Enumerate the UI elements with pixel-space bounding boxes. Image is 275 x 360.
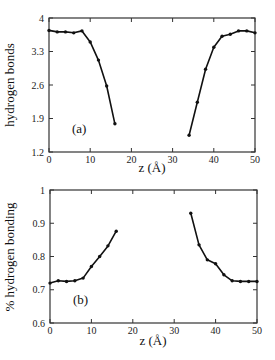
data-point-marker [90,265,93,268]
data-point-marker [115,230,118,233]
y-tick-label: 1 [40,185,45,196]
data-line [189,31,255,135]
panel-b-y-ticks: 0.60.70.80.91 [33,185,258,329]
figure: 01020304050 1.21.92.63.34 z (Å) hydrogen… [0,0,275,360]
data-point-marker [187,134,190,137]
data-point-marker [89,40,92,43]
data-point-marker [255,280,258,283]
panel-b-x-ticks: 01020304050 [48,190,263,336]
data-point-marker [57,279,60,282]
panel-b-chart: 01020304050 0.60.70.80.91 z (Å) % hydrog… [2,185,262,349]
data-point-marker [222,273,225,276]
data-point-marker [80,29,83,32]
data-point-marker [230,279,233,282]
x-tick-label: 0 [48,325,53,336]
y-tick-label: 0.7 [33,284,46,295]
data-point-marker [73,279,76,282]
data-line [50,231,116,283]
data-point-marker [212,45,215,48]
data-point-marker [214,262,217,265]
panel-b-x-axis-label: z (Å) [139,333,166,348]
data-point-marker [189,212,192,215]
y-tick-label: 1.2 [32,147,45,158]
x-tick-label: 30 [168,154,178,165]
data-point-marker [206,258,209,261]
y-tick-label: 3.3 [32,46,45,57]
panel-b-y-axis-label: % hydrogen bonding [2,202,17,312]
x-tick-label: 40 [209,154,219,165]
data-line [49,30,115,123]
data-point-marker [237,29,240,32]
x-tick-label: 10 [85,154,95,165]
data-point-marker [98,255,101,258]
data-point-marker [197,243,200,246]
data-line [191,213,257,281]
data-point-marker [97,58,100,61]
x-tick-label: 40 [211,325,221,336]
data-point-marker [65,280,68,283]
data-point-marker [247,280,250,283]
panel-a-x-ticks: 01020304050 [47,18,261,165]
x-tick-label: 0 [47,154,52,165]
panel-a-y-ticks: 1.21.92.63.34 [32,13,256,158]
x-tick-label: 30 [169,325,179,336]
panel-a-x-axis-label: z (Å) [138,160,165,175]
panel-a-y-axis-label: hydrogen bonds [2,43,17,126]
data-point-marker [113,122,116,125]
x-tick-label: 50 [250,154,260,165]
data-point-marker [220,34,223,37]
data-point-marker [47,29,50,32]
data-point-marker [48,281,51,284]
panel-a-chart: 01020304050 1.21.92.63.34 z (Å) hydrogen… [2,13,260,176]
data-point-marker [245,29,248,32]
data-point-marker [204,68,207,71]
y-tick-label: 1.9 [32,113,45,124]
panel-b-annotation: (b) [73,292,88,307]
data-point-marker [64,30,67,33]
data-point-marker [105,84,108,87]
y-tick-label: 2.6 [32,80,45,91]
data-point-marker [229,33,232,36]
x-tick-label: 20 [128,325,138,336]
panel-a-annotation: (a) [72,121,86,136]
x-tick-label: 20 [126,154,136,165]
data-point-marker [253,31,256,34]
y-tick-label: 0.8 [33,251,46,262]
data-point-marker [196,101,199,104]
data-point-marker [106,244,109,247]
data-point-marker [56,30,59,33]
x-tick-label: 10 [86,325,96,336]
data-point-marker [72,31,75,34]
y-tick-label: 0.9 [33,218,46,229]
y-tick-label: 4 [39,13,44,24]
x-tick-label: 50 [252,325,262,336]
data-point-marker [81,276,84,279]
y-tick-label: 0.6 [33,318,46,329]
data-point-marker [239,280,242,283]
panel-b-data-lines [48,212,258,285]
